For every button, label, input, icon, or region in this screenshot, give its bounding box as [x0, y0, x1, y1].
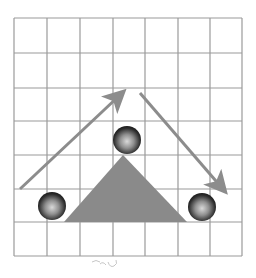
arrow-up-icon	[20, 95, 120, 189]
ball-left	[38, 192, 66, 220]
ball-right	[188, 193, 216, 221]
hill-ball-diagram	[0, 0, 256, 278]
ball-top	[113, 126, 141, 154]
caption-scribble	[92, 260, 117, 267]
